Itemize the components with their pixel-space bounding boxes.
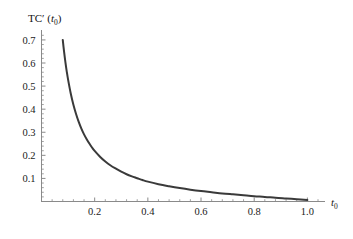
y-tick-label: 0.7 [22,35,35,46]
y-tick-label: 0.3 [22,127,35,138]
x-tick-label: 1.0 [301,206,314,217]
x-tick-label: 0.4 [141,206,155,217]
chart-canvas: 0.10.20.30.40.50.60.7 0.20.40.60.81.0 TC… [0,0,353,239]
y-tick-label: 0.4 [22,104,36,115]
y-tick-label: 0.1 [22,173,35,184]
chart-figure: 0.10.20.30.40.50.60.7 0.20.40.60.81.0 TC… [0,0,353,239]
x-tick-label: 0.8 [248,206,261,217]
chart-background [0,0,353,239]
y-tick-label: 0.6 [22,58,35,69]
y-tick-label: 0.5 [22,81,35,92]
y-tick-label: 0.2 [22,150,35,161]
x-tick-label: 0.2 [88,206,101,217]
x-tick-label: 0.6 [194,206,207,217]
